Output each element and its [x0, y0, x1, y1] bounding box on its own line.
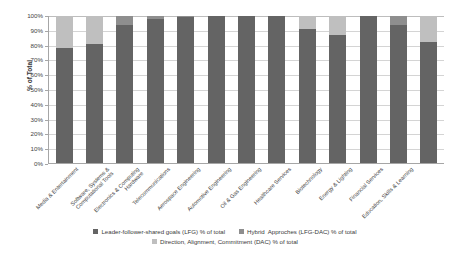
y-axis-tick-label: 60%	[1, 72, 43, 78]
bar-segment-lfg[interactable]	[238, 16, 255, 163]
y-axis-tick-label: 70%	[1, 57, 43, 63]
x-axis-tick-label: Financial Services	[319, 166, 384, 231]
y-axis-title: % of Total	[26, 41, 33, 111]
legend-swatch-icon	[93, 229, 98, 234]
bar-segment-dac[interactable]	[420, 16, 437, 42]
chart-legend: Leader-follower-shared goals (LFG) % of …	[0, 228, 450, 248]
y-axis-tick-label: 90%	[1, 28, 43, 34]
bar-segment-lfg[interactable]	[329, 35, 346, 163]
stacked-bar[interactable]	[329, 16, 346, 163]
stacked-bar[interactable]	[238, 16, 255, 163]
stacked-bar[interactable]	[268, 16, 285, 163]
bar-column	[292, 16, 322, 163]
stacked-bar[interactable]	[177, 16, 194, 163]
bar-column	[262, 16, 292, 163]
bar-segment-lfg[interactable]	[268, 16, 285, 163]
y-axis-tick-label: 20%	[1, 131, 43, 137]
plot-area	[48, 16, 444, 164]
legend-swatch-icon	[152, 239, 157, 244]
legend-swatch-icon	[239, 229, 244, 234]
x-axis-tick-label: Biotechnology	[258, 166, 323, 231]
stacked-bar[interactable]	[420, 16, 437, 163]
y-axis-tick-label: 100%	[1, 13, 43, 19]
legend-item[interactable]: Hybrid Approches (LFG-DAC) % of total	[239, 228, 356, 235]
bar-segment-hybrid[interactable]	[390, 16, 407, 25]
bar-segment-lfg[interactable]	[177, 17, 194, 163]
bar-column	[323, 16, 353, 163]
y-axis-tick-label: 10%	[1, 146, 43, 152]
legend-item[interactable]: Direction, Alignment, Commitment (DAC) %…	[152, 238, 298, 245]
x-axis-tick-label: Energy & Lighting	[289, 166, 354, 231]
bar-segment-lfg[interactable]	[420, 42, 437, 163]
y-axis: 100%90%80%70%60%50%40%30%20%10%0%	[0, 16, 48, 164]
x-axis-tick-label: Healthcare Services	[228, 166, 293, 231]
legend-label: Leader-follower-shared goals (LFG) % of …	[101, 228, 225, 235]
bar-segment-lfg[interactable]	[299, 29, 316, 163]
bar-column	[231, 16, 261, 163]
y-axis-tick-label: 0%	[1, 161, 43, 167]
bar-segment-lfg[interactable]	[116, 25, 133, 163]
bar-segment-lfg[interactable]	[390, 25, 407, 163]
stacked-bar[interactable]	[208, 16, 225, 163]
bar-segment-hybrid[interactable]	[116, 16, 133, 25]
bar-column	[49, 16, 79, 163]
stacked-bar-chart: 100%90%80%70%60%50%40%30%20%10%0% % of T…	[0, 0, 450, 266]
bar-segment-lfg[interactable]	[56, 48, 73, 163]
y-axis-tick-label: 40%	[1, 102, 43, 108]
legend-row-primary: Leader-follower-shared goals (LFG) % of …	[0, 228, 450, 235]
bar-segment-dac[interactable]	[299, 16, 316, 29]
legend-item[interactable]: Leader-follower-shared goals (LFG) % of …	[93, 228, 225, 235]
x-axis-tick-label: Oil & Gas Engineering	[197, 166, 262, 231]
bar-segment-lfg[interactable]	[147, 19, 164, 163]
stacked-bar[interactable]	[299, 16, 316, 163]
x-axis-tick-label: Education, Skills & Learning	[349, 166, 414, 231]
stacked-bar[interactable]	[147, 16, 164, 163]
stacked-bar[interactable]	[116, 16, 133, 163]
x-axis-tick-label: Automotive Engineering	[167, 166, 232, 231]
bar-column	[79, 16, 109, 163]
bar-column	[353, 16, 383, 163]
plot-frame	[48, 16, 444, 164]
x-axis-labels: Media & EntertainmentSoftware, Systems &…	[48, 166, 444, 218]
y-axis-tick-label: 50%	[1, 87, 43, 93]
stacked-bar[interactable]	[360, 16, 377, 163]
stacked-bar[interactable]	[390, 16, 407, 163]
legend-label: Hybrid Approches (LFG-DAC) % of total	[247, 228, 356, 235]
bar-column	[414, 16, 444, 163]
bar-segment-lfg[interactable]	[360, 16, 377, 163]
x-axis-tick-label: Aerospace Engineering	[136, 166, 201, 231]
stacked-bar[interactable]	[86, 16, 103, 163]
bar-column	[140, 16, 170, 163]
bar-column	[201, 16, 231, 163]
bar-group	[49, 16, 444, 163]
legend-label: Direction, Alignment, Commitment (DAC) %…	[160, 238, 298, 245]
y-axis-tick-label: 80%	[1, 42, 43, 48]
y-axis-tick-label: 30%	[1, 116, 43, 122]
x-axis-tick-label: Media & Entertainment	[14, 166, 79, 231]
bar-segment-lfg[interactable]	[86, 44, 103, 163]
legend-row-secondary: Direction, Alignment, Commitment (DAC) %…	[0, 238, 450, 245]
bar-segment-lfg[interactable]	[208, 16, 225, 163]
y-axis-tick-mark	[45, 164, 48, 165]
bar-segment-dac[interactable]	[56, 16, 73, 48]
bar-segment-dac[interactable]	[329, 16, 346, 35]
stacked-bar[interactable]	[56, 16, 73, 163]
bar-column	[110, 16, 140, 163]
bar-column	[171, 16, 201, 163]
bar-segment-dac[interactable]	[86, 16, 103, 44]
bar-column	[383, 16, 413, 163]
